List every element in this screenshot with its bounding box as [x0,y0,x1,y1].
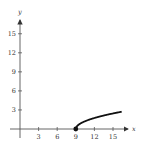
y-tick-label: 6 [12,87,16,95]
curve-series [76,112,122,129]
y-tick-label: 3 [12,106,16,114]
y-tick-label: 15 [8,30,16,38]
y-tick-label: 12 [8,49,16,57]
x-tick-label: 9 [74,133,78,141]
y-tick-label: 9 [12,68,16,76]
x-tick-label: 6 [55,133,59,141]
y-axis-label: y [17,8,22,16]
x-tick-label: 3 [37,133,41,141]
x-tick-label: 12 [90,133,98,141]
x-axis-label: x [132,125,136,133]
start-point-marker [73,127,78,132]
chart-plot: 3691215 3691215 x y [0,0,144,147]
x-tick-label: 15 [109,133,117,141]
